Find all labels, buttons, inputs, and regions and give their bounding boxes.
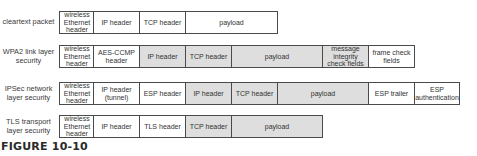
cell-tls-header: TLS header bbox=[139, 115, 186, 138]
cell-wireless-ethernet-header: wireless Ethernet header bbox=[59, 82, 95, 105]
cell-ip-header: IP header bbox=[185, 82, 232, 105]
cell-payload: payload bbox=[277, 82, 369, 105]
figure-caption: FIGURE 10-10 bbox=[1, 140, 88, 153]
cell-esp-header: ESP header bbox=[139, 82, 186, 105]
row-label-tls: TLS transport layer security bbox=[0, 115, 57, 138]
cell-tcp-header: TCP header bbox=[185, 115, 232, 138]
packet-cleartext: wireless Ethernet header IP header TCP h… bbox=[59, 11, 279, 34]
row-label-ipsec: IPSec network layer security bbox=[0, 82, 57, 105]
cell-frame-check-fields: frame check fields bbox=[368, 45, 415, 68]
cell-ip-header: IP header bbox=[93, 11, 140, 34]
cell-message-integrity-check: message integrity check fields bbox=[322, 45, 369, 68]
cell-payload: payload bbox=[231, 45, 323, 68]
cell-wireless-ethernet-header: wireless Ethernet header bbox=[59, 115, 95, 138]
packet-ipsec: wireless Ethernet header IP header (tunn… bbox=[59, 82, 461, 105]
cell-tcp-header: TCP header bbox=[231, 82, 278, 105]
cell-esp-authentication: ESP authentication bbox=[414, 82, 460, 105]
row-label-wpa2: WPA2 link layer security bbox=[0, 45, 57, 68]
cell-tcp-header: TCP header bbox=[139, 11, 186, 34]
row-label-cleartext: cleartext packet bbox=[0, 11, 57, 34]
cell-ip-header: IP header bbox=[93, 115, 140, 138]
cell-esp-trailer: ESP trailer bbox=[368, 82, 415, 105]
cell-ip-header-tunnel: IP header (tunnel) bbox=[93, 82, 140, 105]
cell-payload: payload bbox=[231, 115, 323, 138]
packet-tls: wireless Ethernet header IP header TLS h… bbox=[59, 115, 324, 138]
cell-ip-header: IP header bbox=[139, 45, 186, 68]
packet-wpa2: wireless Ethernet header AES-CCMP header… bbox=[59, 45, 416, 68]
cell-payload: payload bbox=[185, 11, 278, 34]
cell-tcp-header: TCP header bbox=[185, 45, 232, 68]
cell-wireless-ethernet-header: wireless Ethernet header bbox=[59, 45, 95, 68]
cell-aes-ccmp-header: AES-CCMP header bbox=[93, 45, 140, 68]
cell-wireless-ethernet-header: wireless Ethernet header bbox=[59, 11, 95, 34]
